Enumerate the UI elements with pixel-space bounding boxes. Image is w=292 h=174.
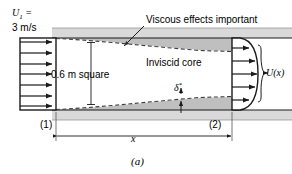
inviscid-core-label: Inviscid core [146,57,202,69]
figure-caption: (a) [131,155,144,168]
duct-size-label: 0.6 m square [51,69,109,81]
station-1-label: (1) [40,119,52,131]
diagram-canvas [0,0,292,174]
figure-entrance-flow-diagram: U1 = 3 m/s Viscous effects important Inv… [0,0,292,174]
inlet-velocity-value: 3 m/s [12,22,36,34]
inlet-velocity-equals: = [23,7,32,18]
displacement-thickness-label: δ* [174,81,182,94]
exit-velocity-profile [232,38,258,110]
inlet-velocity-label: U1 = 3 m/s [12,7,36,34]
delta-superscript: * [179,81,183,89]
viscous-effects-label: Viscous effects important [146,14,257,26]
exit-velocity-label: U(x) [266,67,284,79]
station-2-label: (2) [209,119,221,131]
length-dimension-label: x [131,133,135,145]
